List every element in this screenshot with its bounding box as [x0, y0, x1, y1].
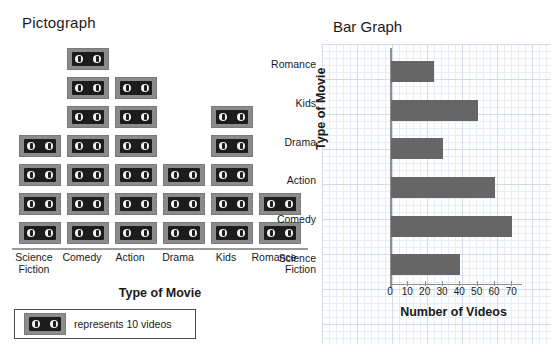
videotape-icon — [68, 107, 108, 127]
pictograph-icon-cell — [164, 160, 204, 189]
bargraph-yaxis-label: Science Fiction — [250, 253, 316, 276]
videotape-icon — [68, 194, 108, 214]
pictograph-icon-cell — [164, 218, 204, 247]
videotape-icon — [20, 165, 60, 185]
pictograph-xaxis-label: Science Fiction — [7, 252, 61, 275]
xaxis-line — [390, 284, 522, 286]
pictograph-title: Pictograph — [22, 14, 96, 31]
pictograph-xaxis-label: Comedy — [55, 252, 109, 264]
xaxis-tick-label: 40 — [451, 286, 467, 297]
bargraph-xaxis-ticks: 010203040506070 — [390, 286, 530, 300]
pictograph-icon-cell — [116, 73, 156, 102]
pictograph-icon-cell — [212, 218, 252, 247]
pictograph-icon-cell — [116, 189, 156, 218]
pictograph-legend: represents 10 videos — [14, 309, 196, 339]
xaxis-tick-label: 70 — [503, 286, 519, 297]
bar — [391, 216, 512, 237]
pictograph-xaxis-label: Drama — [151, 252, 205, 264]
pictograph-xaxis-label: Kids — [199, 252, 253, 264]
pictograph-icon-cell — [20, 160, 60, 189]
legend-label: represents 10 videos — [74, 318, 171, 330]
pictograph-column — [114, 73, 158, 247]
videotape-icon — [20, 194, 60, 214]
bar — [391, 100, 478, 121]
pictograph-column — [210, 102, 254, 247]
xaxis-tick-label: 30 — [434, 286, 450, 297]
videotape-icon — [25, 314, 65, 334]
bargraph-yaxis-label: Kids — [250, 98, 316, 110]
bar — [391, 61, 434, 82]
xaxis-tick-label: 0 — [382, 286, 398, 297]
videotape-icon — [164, 223, 204, 243]
bargraph-yaxis-label: Romance — [250, 59, 316, 71]
pictograph-icon-cell — [68, 44, 108, 73]
pictograph-icon-cell — [212, 102, 252, 131]
bar — [391, 177, 495, 198]
pictograph-icon-cell — [164, 189, 204, 218]
bargraph-panel: Bar Graph Science FictionComedyActionDra… — [320, 0, 551, 348]
pictograph-icon-cell — [68, 73, 108, 102]
pictograph-icon-cell — [116, 102, 156, 131]
bargraph-title: Bar Graph — [333, 18, 402, 35]
bar-row — [391, 61, 521, 82]
pictograph-xaxis-label: Action — [103, 252, 157, 264]
videotape-icon — [116, 136, 156, 156]
videotape-icon — [20, 136, 60, 156]
xaxis-tick-label: 60 — [486, 286, 502, 297]
pictograph-icon-cell — [212, 131, 252, 160]
bar — [391, 138, 443, 159]
pictograph-icon-cell — [68, 218, 108, 247]
videotape-icon — [212, 136, 252, 156]
pictograph-icon-cell — [20, 189, 60, 218]
videotape-icon — [116, 78, 156, 98]
videotape-icon — [68, 49, 108, 69]
videotape-icon — [68, 136, 108, 156]
pictograph-column — [162, 160, 206, 247]
bargraph-xaxis-title: Number of Videos — [366, 305, 541, 319]
videotape-icon — [116, 194, 156, 214]
videotape-icon — [116, 107, 156, 127]
pictograph-icon-cell — [212, 189, 252, 218]
bargraph-yaxis-title: Type of Movie — [314, 68, 328, 150]
pictograph-icon-cell — [68, 160, 108, 189]
videotape-icon — [68, 78, 108, 98]
videotape-icon — [212, 107, 252, 127]
videotape-icon — [20, 223, 60, 243]
bargraph-yaxis-label: Action — [250, 175, 316, 187]
pictograph-icon-cell — [116, 160, 156, 189]
bar-row — [391, 138, 521, 159]
videotape-icon — [164, 165, 204, 185]
bar-row — [391, 254, 521, 275]
pictograph-icon-cell — [116, 131, 156, 160]
pictograph-icon-cell — [116, 218, 156, 247]
videotape-icon — [68, 165, 108, 185]
pictograph-icon-cell — [68, 131, 108, 160]
pictograph-column — [18, 131, 62, 247]
videotape-icon — [212, 223, 252, 243]
bargraph-plot-area — [390, 52, 520, 284]
bar-row — [391, 100, 521, 121]
bargraph-yaxis-label: Comedy — [250, 214, 316, 226]
bar-row — [391, 216, 521, 237]
pictograph-icon-cell — [68, 102, 108, 131]
xaxis-tick-label: 50 — [469, 286, 485, 297]
videotape-icon — [116, 165, 156, 185]
pictograph-column — [66, 44, 110, 247]
pictograph-icon-cell — [212, 160, 252, 189]
xaxis-tick-label: 10 — [399, 286, 415, 297]
videotape-icon — [164, 194, 204, 214]
pictograph-icon-cell — [20, 218, 60, 247]
videotape-icon — [212, 194, 252, 214]
xaxis-tick-label: 20 — [417, 286, 433, 297]
videotape-icon — [116, 223, 156, 243]
bargraph-yaxis-labels: Science FictionComedyActionDramaKidsRoma… — [250, 52, 316, 284]
bar — [391, 254, 460, 275]
pictograph-icon-cell — [68, 189, 108, 218]
pictograph-xaxis-title: Type of Movie — [12, 286, 308, 300]
videotape-icon — [212, 165, 252, 185]
yaxis-line — [390, 48, 392, 288]
bargraph-yaxis-label: Drama — [250, 137, 316, 149]
pictograph-icon-cell — [20, 131, 60, 160]
bar-row — [391, 177, 521, 198]
videotape-icon — [68, 223, 108, 243]
